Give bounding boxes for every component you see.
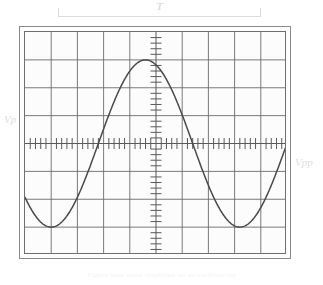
period-label: T (58, 0, 261, 12)
peak-to-peak-voltage-label: Vpp (295, 156, 313, 168)
scope-inner-bezel (24, 31, 286, 254)
peak-voltage-label: Vp (4, 113, 16, 125)
oscilloscope-figure: T Vp Vpp (0, 0, 323, 285)
period-bracket: T (58, 16, 261, 17)
figure-caption: Figure Sine wave displayed on an oscillo… (52, 271, 272, 279)
graticule-area (25, 32, 285, 253)
waveform-trace (25, 32, 285, 253)
scope-outer-bezel (19, 26, 291, 259)
